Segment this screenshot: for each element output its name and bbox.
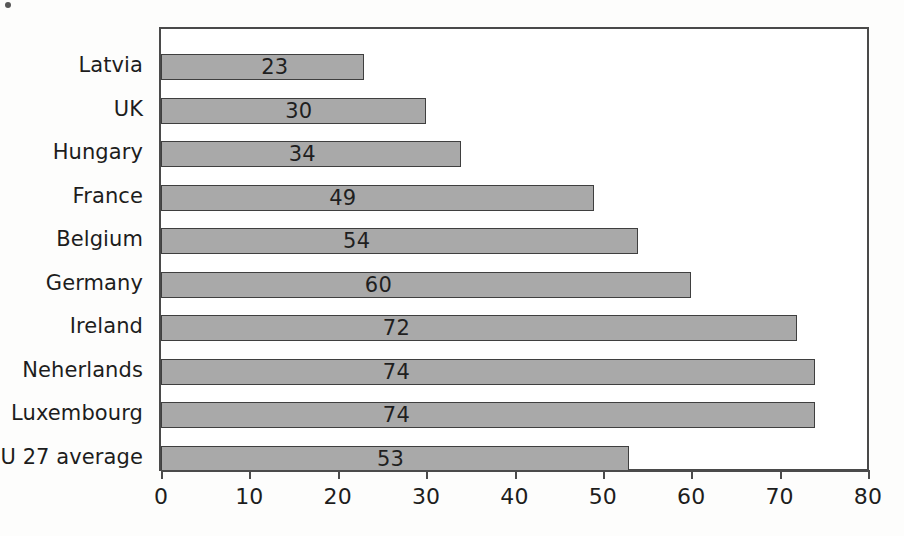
y-axis-category-labels: LatviaUKHungaryFranceBelgiumGermanyIrela… [0, 27, 152, 470]
bar-value-label: 53 [377, 446, 404, 472]
scan-artifact-speck [5, 2, 11, 8]
bar-row: 49 [161, 175, 868, 219]
x-axis-tick [780, 470, 782, 479]
x-axis-tick-label: 60 [677, 484, 705, 509]
bar-value-label: 23 [261, 54, 288, 80]
category-label: Germany [46, 262, 152, 306]
bar-row: 54 [161, 218, 868, 262]
bar-row: 30 [161, 88, 868, 132]
x-axis-tick [249, 470, 251, 479]
category-label: Belgium [56, 218, 152, 262]
x-axis-tick-label: 0 [154, 484, 168, 509]
category-label: EU 27 average [0, 436, 152, 480]
x-axis-tick-label: 50 [589, 484, 617, 509]
x-axis-tick-label: 10 [235, 484, 263, 509]
bar-value-label: 74 [383, 359, 410, 385]
bar-row: 74 [161, 392, 868, 436]
x-axis-tick [515, 470, 517, 479]
category-label: Neherlands [22, 349, 152, 393]
bar-row: 23 [161, 44, 868, 88]
x-axis-tick-label: 30 [412, 484, 440, 509]
x-axis-tick-label: 40 [500, 484, 528, 509]
category-label: Latvia [78, 44, 152, 88]
chart-page: LatviaUKHungaryFranceBelgiumGermanyIrela… [0, 0, 904, 536]
x-axis-tick-label: 70 [765, 484, 793, 509]
x-axis-tick [161, 470, 163, 479]
x-axis-tick-label: 20 [324, 484, 352, 509]
bar-row: 34 [161, 131, 868, 175]
category-label: UK [114, 88, 152, 132]
bar-row: 72 [161, 305, 868, 349]
bar[interactable] [161, 228, 638, 254]
x-axis: 01020304050607080 [161, 470, 868, 530]
bar[interactable] [161, 185, 594, 211]
bar-row: 74 [161, 349, 868, 393]
bar-value-label: 72 [383, 315, 410, 341]
bar[interactable] [161, 359, 815, 385]
category-label: Luxembourg [11, 392, 152, 436]
bar[interactable] [161, 402, 815, 428]
bar[interactable] [161, 315, 797, 341]
category-label: Ireland [70, 305, 152, 349]
bars-layer: 23303449546072747453 [161, 27, 868, 470]
bar-value-label: 30 [285, 98, 312, 124]
x-axis-tick [338, 470, 340, 479]
bar[interactable] [161, 272, 691, 298]
category-label: Hungary [53, 131, 152, 175]
bar-row: 60 [161, 262, 868, 306]
x-axis-tick [603, 470, 605, 479]
x-axis-tick [426, 470, 428, 479]
bar-value-label: 49 [329, 185, 356, 211]
x-axis-tick [868, 470, 870, 479]
category-label: France [73, 175, 152, 219]
bar-value-label: 60 [365, 272, 392, 298]
x-axis-tick-label: 80 [854, 484, 882, 509]
bar-value-label: 54 [343, 228, 370, 254]
bar-value-label: 74 [383, 402, 410, 428]
bar-value-label: 34 [289, 141, 316, 167]
x-axis-tick [691, 470, 693, 479]
